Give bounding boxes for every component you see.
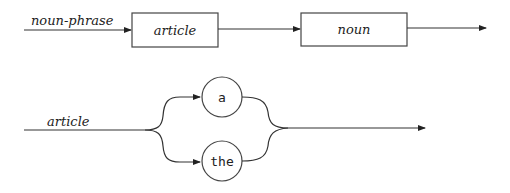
branch-the-in [145, 130, 200, 162]
rule-label-article: article [47, 114, 90, 129]
noun-phrase-diagram: noun-phrase article noun [24, 13, 486, 47]
branch-a-out [242, 97, 288, 128]
terminal-label-a: a [218, 90, 226, 105]
syntax-diagrams: noun-phrase article noun article a the [0, 0, 510, 193]
nonterminal-label-noun: noun [338, 22, 371, 37]
nonterminal-label-article: article [154, 23, 197, 38]
terminal-label-the: the [210, 154, 234, 169]
rule-label-noun-phrase: noun-phrase [31, 13, 114, 28]
article-diagram: article a the [24, 77, 425, 181]
branch-a-in [145, 97, 200, 130]
branch-the-out [242, 128, 288, 161]
